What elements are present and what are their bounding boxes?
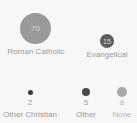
bubble-label: Roman Catholic bbox=[8, 47, 65, 56]
bubble-circle bbox=[82, 88, 90, 96]
bubble-circle: 15 bbox=[100, 34, 114, 48]
bubble-circle bbox=[117, 87, 127, 97]
bubble-value: 2 bbox=[28, 98, 32, 107]
bubble-label: Evangelical bbox=[87, 50, 128, 59]
bubble-value: 5 bbox=[84, 98, 88, 107]
bubble-value: 70 bbox=[31, 24, 40, 33]
bubble-value: 15 bbox=[103, 38, 111, 45]
bubble-value: 8 bbox=[120, 98, 124, 107]
bubble-label: Other Christian bbox=[3, 110, 57, 119]
bubble-circle bbox=[28, 90, 33, 95]
bubble-circle: 70 bbox=[20, 13, 51, 44]
bubble-label: Other bbox=[76, 110, 96, 119]
bubble-label: None bbox=[112, 110, 131, 119]
